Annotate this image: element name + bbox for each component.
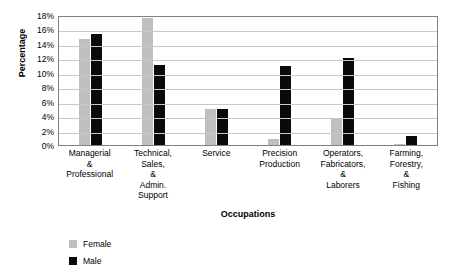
bar-group <box>374 17 437 145</box>
bar-male[interactable] <box>217 109 228 145</box>
gridline <box>59 133 437 134</box>
x-axis-category-label: Managerial & Professional <box>58 148 121 201</box>
legend-item-male[interactable]: Male <box>69 254 111 268</box>
plot-area <box>58 16 438 146</box>
bar-group <box>59 17 122 145</box>
bar-group <box>122 17 185 145</box>
y-axis-tick-label: 4% <box>24 113 54 122</box>
gridline <box>59 31 437 32</box>
gridline <box>59 118 437 119</box>
y-axis-tick-label: 16% <box>24 26 54 35</box>
gridline <box>59 60 437 61</box>
x-axis-title: Occupations <box>58 209 438 219</box>
bar-groups <box>59 17 437 145</box>
bar-chart: Percentage 18%16%14%12%10%8%6%4%2%0% Man… <box>0 0 463 279</box>
bar-female[interactable] <box>79 39 90 145</box>
legend: FemaleMale <box>69 237 111 271</box>
gridline <box>59 89 437 90</box>
x-axis-category-label: Service <box>185 148 248 201</box>
legend-label: Male <box>83 256 101 266</box>
x-axis-category-label: Operators, Fabricators, & Laborers <box>311 148 374 201</box>
x-axis-category-label: Farming, Forestry, & Fishing <box>375 148 438 201</box>
x-axis-category-label: Precision Production <box>248 148 311 201</box>
bar-group <box>311 17 374 145</box>
y-axis-tick-label: 6% <box>24 98 54 107</box>
y-axis-tick-labels: 18%16%14%12%10%8%6%4%2%0% <box>24 12 54 146</box>
y-axis-tick-label: 18% <box>24 12 54 21</box>
bar-male[interactable] <box>406 136 417 145</box>
bar-group <box>248 17 311 145</box>
y-axis-tick-label: 14% <box>24 40 54 49</box>
y-axis-tick-label: 10% <box>24 69 54 78</box>
gridline <box>59 75 437 76</box>
x-axis-category-label: Technical, Sales, & Admin. Support <box>121 148 184 201</box>
bar-group <box>185 17 248 145</box>
bar-female[interactable] <box>268 139 279 145</box>
legend-label: Female <box>83 239 111 249</box>
gridline <box>59 104 437 105</box>
gridline <box>59 46 437 47</box>
x-axis-category-labels: Managerial & ProfessionalTechnical, Sale… <box>58 148 438 201</box>
y-axis-tick-label: 12% <box>24 55 54 64</box>
y-axis-tick-label: 8% <box>24 84 54 93</box>
y-axis-tick-label: 0% <box>24 142 54 151</box>
legend-swatch-male-icon <box>69 257 77 265</box>
legend-item-female[interactable]: Female <box>69 237 111 251</box>
legend-swatch-female-icon <box>69 240 77 248</box>
bar-female[interactable] <box>205 109 216 145</box>
y-axis-tick-label: 2% <box>24 127 54 136</box>
bar-female[interactable] <box>394 144 405 145</box>
bar-female[interactable] <box>142 18 153 145</box>
